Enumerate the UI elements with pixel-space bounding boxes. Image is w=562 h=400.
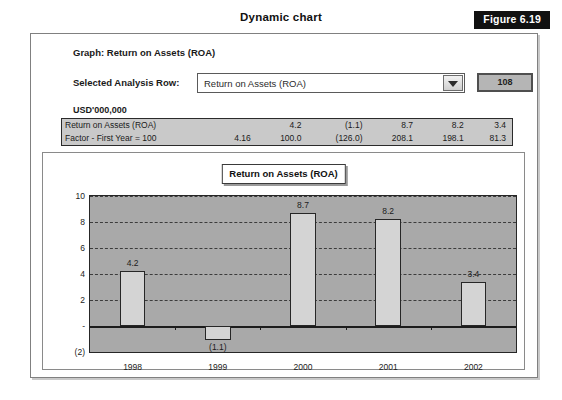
x-axis-tick-mark — [260, 326, 261, 330]
chart-title: Return on Assets (ROA) — [221, 164, 345, 184]
table-cell: 81.3 — [470, 132, 513, 146]
x-axis-tick-mark — [175, 326, 176, 330]
analysis-data-table: Return on Assets (ROA) 4.2 (1.1) 8.7 8.2… — [61, 118, 513, 146]
row-index-value: 108 — [477, 73, 533, 92]
analysis-row-selector: Selected Analysis Row: Return on Assets … — [73, 73, 523, 93]
table-cell: 100.0 — [257, 132, 308, 146]
chart-bar[interactable] — [461, 282, 487, 326]
chart-plot-area: 108642-(2)4.21998(1.1)19998.720008.22001… — [89, 195, 517, 353]
chevron-down-icon — [448, 81, 458, 87]
table-cell: 8.7 — [369, 119, 420, 133]
analysis-row-dropdown-value: Return on Assets (ROA) — [204, 78, 306, 89]
table-cell: (1.1) — [307, 119, 368, 133]
y-axis-tick-label: 10 — [76, 191, 85, 201]
table-body: Return on Assets (ROA) 4.2 (1.1) 8.7 8.2… — [62, 119, 513, 146]
chart-bar[interactable] — [205, 326, 231, 340]
chart-data-label: (1.1) — [209, 342, 226, 352]
chart-data-label: 8.2 — [382, 206, 394, 216]
table-cell: 4.2 — [257, 119, 308, 133]
x-axis-tick-mark — [346, 326, 347, 330]
table-cell: (126.0) — [307, 132, 368, 146]
x-axis-tick-label: 2000 — [294, 362, 313, 372]
graph-caption: Graph: Return on Assets (ROA) — [73, 47, 215, 58]
y-axis-tick-label: 8 — [80, 217, 85, 227]
chart-zero-line — [90, 326, 516, 328]
table-row-label: Factor - First Year = 100 — [62, 132, 216, 146]
chart-data-label: 8.7 — [297, 200, 309, 210]
chart-container: Return on Assets (ROA) 108642-(2)4.21998… — [42, 152, 525, 370]
y-axis-tick-label: 4 — [80, 269, 85, 279]
x-axis-tick-label: 2002 — [464, 362, 483, 372]
y-axis-tick-label: 6 — [80, 243, 85, 253]
x-axis-tick-label: 2001 — [379, 362, 398, 372]
y-axis-tick-label: (2) — [75, 347, 85, 357]
table-row-label: Return on Assets (ROA) — [62, 119, 216, 133]
table-cell: 3.4 — [470, 119, 513, 133]
x-axis-tick-mark — [431, 326, 432, 330]
table-cell: 208.1 — [369, 132, 420, 146]
table-row: Factor - First Year = 100 4.16 100.0 (12… — [62, 132, 513, 146]
table-cell: 4.16 — [215, 132, 257, 146]
table-row: Return on Assets (ROA) 4.2 (1.1) 8.7 8.2… — [62, 119, 513, 133]
dropdown-button[interactable] — [443, 75, 463, 91]
chart-data-label: 4.2 — [127, 258, 139, 268]
chart-gridline — [90, 196, 516, 197]
units-label: USD'000,000 — [73, 105, 127, 115]
table-cell: 8.2 — [419, 119, 470, 133]
chart-bar[interactable] — [120, 271, 146, 326]
y-axis-tick-label: - — [82, 321, 85, 331]
selector-label: Selected Analysis Row: — [73, 77, 179, 88]
analysis-row-dropdown[interactable]: Return on Assets (ROA) — [197, 73, 465, 93]
table-cell — [215, 119, 257, 133]
figure-badge: Figure 6.19 — [474, 11, 550, 29]
x-axis-tick-label: 1998 — [123, 362, 142, 372]
x-axis-tick-label: 1999 — [208, 362, 227, 372]
table-cell: 198.1 — [419, 132, 470, 146]
chart-bar[interactable] — [290, 213, 316, 326]
dynamic-chart-panel: Graph: Return on Assets (ROA) Selected A… — [30, 33, 538, 378]
chart-bar[interactable] — [375, 219, 401, 326]
chart-data-label: 3.4 — [467, 269, 479, 279]
y-axis-tick-label: 2 — [80, 295, 85, 305]
